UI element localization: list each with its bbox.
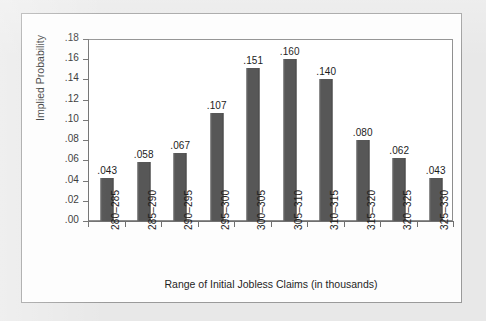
y-axis-tick-label: .16 — [65, 52, 79, 63]
x-axis-category-label: 295–300 — [220, 170, 231, 230]
scan-background: .18.16.14.12.10.08.06.04.02.00 Implied P… — [0, 0, 486, 321]
x-axis-tick-mark — [453, 222, 454, 227]
y-axis-tick-mark — [83, 39, 88, 40]
y-axis-tick-mark — [83, 79, 88, 80]
x-axis-category-label: 305–310 — [293, 170, 304, 230]
y-axis-tick-label: .00 — [65, 214, 79, 225]
y-axis-tick-label: .10 — [65, 113, 79, 124]
y-axis-tick-label: .06 — [65, 153, 79, 164]
bar-value-label: .080 — [353, 127, 373, 138]
y-axis-tick-label: .04 — [65, 174, 79, 185]
x-axis-tick-mark — [234, 222, 235, 227]
y-axis-tick-mark — [83, 181, 88, 182]
y-axis-tick-mark — [83, 201, 88, 202]
x-axis-tick-mark — [271, 222, 272, 227]
x-axis-title: Range of Initial Jobless Claims (in thou… — [88, 278, 454, 290]
x-axis-category-label: 320–325 — [402, 170, 413, 230]
bar-value-label: .058 — [134, 149, 154, 160]
y-axis-tick-label: .14 — [65, 72, 79, 83]
x-axis-tick-mark — [198, 222, 199, 227]
implied-probability-bar-chart: .18.16.14.12.10.08.06.04.02.00 Implied P… — [22, 14, 461, 302]
x-axis-tick-mark — [125, 222, 126, 227]
x-axis-category-label: 310–315 — [329, 170, 340, 230]
x-axis-category-label: 290–295 — [183, 170, 194, 230]
bars-group: .043.058.067.107.151.160.140.080.062.043 — [89, 39, 453, 221]
bar-value-label: .107 — [207, 100, 227, 111]
x-axis-category-label: 285–290 — [147, 170, 158, 230]
x-axis-tick-mark — [417, 222, 418, 227]
y-axis-tick-mark — [83, 59, 88, 60]
y-axis-tick-label: .02 — [65, 194, 79, 205]
x-axis-tick-mark — [380, 222, 381, 227]
y-axis-tick-label: .12 — [65, 93, 79, 104]
x-axis-tick-mark — [161, 222, 162, 227]
bar-value-label: .140 — [316, 66, 336, 77]
y-axis-tick-label: .18 — [65, 32, 79, 43]
y-axis-tick-mark — [83, 140, 88, 141]
y-axis-tick-mark — [83, 100, 88, 101]
bar-value-label: .067 — [170, 140, 190, 151]
x-axis-tick-mark — [344, 222, 345, 227]
x-axis-tick-mark — [88, 222, 89, 227]
x-axis-category-label: 280–285 — [110, 170, 121, 230]
y-axis-title: Implied Probability — [34, 0, 46, 158]
x-axis-tick-mark — [307, 222, 308, 227]
x-axis-category-label: 315–320 — [366, 170, 377, 230]
bar-value-label: .062 — [389, 145, 409, 156]
bar-value-label: .151 — [243, 55, 263, 66]
x-axis-category-label: 300–305 — [256, 170, 267, 230]
x-axis-category-label: 325–330 — [439, 170, 450, 230]
bar-value-label: .160 — [280, 46, 300, 57]
figure-card: .18.16.14.12.10.08.06.04.02.00 Implied P… — [21, 13, 462, 303]
y-axis-tick-mark — [83, 120, 88, 121]
y-axis-tick-mark — [83, 160, 88, 161]
y-axis-tick-label: .08 — [65, 133, 79, 144]
